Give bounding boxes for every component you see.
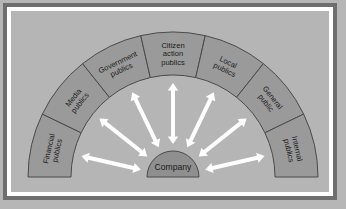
radial-publics-diagram: Company FinancialpublicsMediapublicsGove… xyxy=(0,0,346,209)
company-hub: Company xyxy=(147,151,199,177)
arrow-to-general-public xyxy=(199,118,247,156)
label-citizen-action-publics: Citizenactionpublics xyxy=(161,41,185,67)
arrow-to-government-publics xyxy=(131,92,160,147)
arrow-to-internal-publics xyxy=(205,153,264,173)
diagram-canvas: Company FinancialpublicsMediapublicsGove… xyxy=(0,0,346,209)
arrow-to-local-publics xyxy=(186,92,215,147)
arrow-to-citizen-action-publics xyxy=(168,83,178,144)
company-hub-label: Company xyxy=(155,162,192,172)
arrow-to-media-publics xyxy=(100,118,148,156)
arrow-to-financial-publics xyxy=(81,153,140,173)
